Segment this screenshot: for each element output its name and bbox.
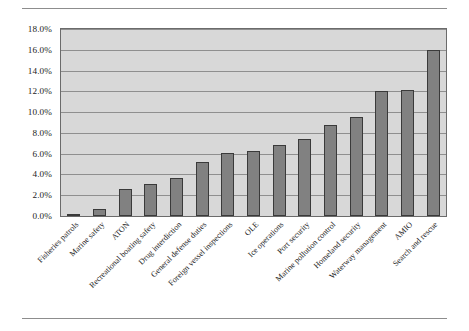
- bar: [247, 151, 260, 216]
- y-axis-tick-label: 0.0%: [32, 211, 52, 221]
- x-axis: Fisheries patrolsMarine safetyATONRecrea…: [61, 218, 446, 318]
- y-axis-tick-label: 12.0%: [28, 86, 52, 96]
- bar: [119, 189, 132, 216]
- top-divider-rule: [22, 8, 447, 9]
- bars-group: [61, 29, 446, 216]
- bar: [273, 145, 286, 216]
- y-axis-tick-label: 6.0%: [32, 149, 52, 159]
- bar: [170, 178, 183, 216]
- y-axis-tick-label: 8.0%: [32, 128, 52, 138]
- bar: [67, 214, 80, 216]
- chart-figure: 18.0%16.0%14.0%12.0%10.0%8.0%6.0%4.0%2.0…: [0, 0, 469, 331]
- bar: [427, 50, 440, 216]
- y-axis-tick-label: 10.0%: [28, 107, 52, 117]
- y-axis-tick-label: 14.0%: [28, 66, 52, 76]
- bar: [298, 139, 311, 216]
- bar: [375, 91, 388, 216]
- y-axis-tick-label: 18.0%: [28, 24, 52, 34]
- y-axis: 18.0%16.0%14.0%12.0%10.0%8.0%6.0%4.0%2.0…: [0, 28, 56, 217]
- bar: [144, 184, 157, 216]
- bar: [93, 209, 106, 216]
- bar: [350, 117, 363, 216]
- bar: [221, 153, 234, 216]
- bar: [196, 162, 209, 216]
- bar: [401, 90, 414, 216]
- bar: [324, 125, 337, 216]
- y-axis-tick-label: 2.0%: [32, 190, 52, 200]
- y-axis-tick-label: 4.0%: [32, 169, 52, 179]
- y-axis-tick-label: 16.0%: [28, 45, 52, 55]
